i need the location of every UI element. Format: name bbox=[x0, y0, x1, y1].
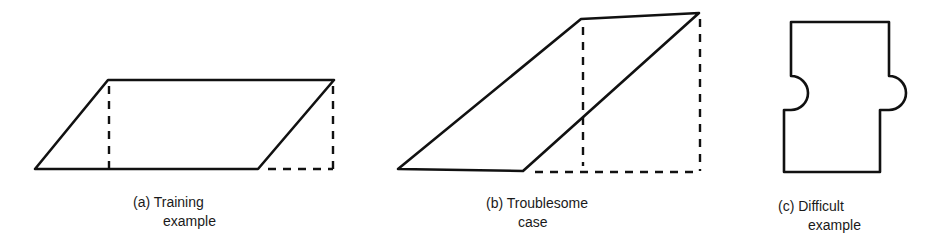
puzzle-shape-c bbox=[784, 22, 906, 172]
parallelogram-b bbox=[398, 13, 699, 171]
panel-a-drawing bbox=[35, 80, 334, 169]
caption-a: (a) Training example bbox=[133, 193, 216, 231]
caption-b-line1: (b) Troublesome bbox=[486, 195, 588, 211]
caption-c-line1: (c) Difficult bbox=[778, 198, 844, 214]
caption-c: (c) Difficult example bbox=[778, 197, 861, 235]
caption-a-line2: example bbox=[133, 212, 216, 231]
caption-c-line2: example bbox=[778, 216, 861, 235]
caption-a-line1: (a) Training bbox=[133, 194, 204, 210]
parallelogram-a bbox=[35, 80, 334, 169]
caption-b-line2: case bbox=[486, 213, 588, 232]
panel-b-drawing bbox=[398, 13, 700, 172]
caption-b: (b) Troublesome case bbox=[486, 194, 588, 232]
panel-c-drawing bbox=[784, 22, 906, 172]
figure: (a) Training example (b) Troublesome cas… bbox=[0, 0, 946, 249]
